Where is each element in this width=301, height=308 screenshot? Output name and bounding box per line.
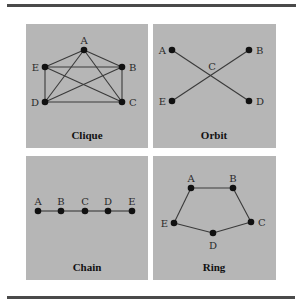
- node-C: [82, 208, 89, 215]
- network-diagram: ABCDE ABDEC ABCDE ABCDE Clique Orbit Cha…: [0, 0, 301, 308]
- node-label-E: E: [161, 218, 168, 229]
- node-label-D: D: [256, 96, 264, 107]
- clique-title: Clique: [71, 129, 102, 141]
- node-label-C: C: [208, 61, 216, 72]
- node-A: [81, 47, 88, 54]
- chain-graph: ABCDE: [33, 196, 135, 214]
- node-label-A: A: [33, 196, 42, 207]
- node-label-E: E: [32, 62, 39, 73]
- node-label-A: A: [158, 45, 167, 56]
- node-A: [35, 208, 42, 215]
- node-B: [119, 64, 126, 71]
- node-D: [246, 98, 253, 105]
- edge-B-C: [233, 188, 251, 222]
- node-label-C: C: [258, 217, 266, 228]
- orbit-title: Orbit: [201, 129, 228, 141]
- node-label-B: B: [129, 62, 136, 73]
- node-B: [58, 208, 65, 215]
- ring-graph: ABCDE: [161, 173, 266, 251]
- node-C: [119, 99, 126, 106]
- clique-graph: ABCDE: [31, 35, 137, 108]
- node-label-A: A: [79, 35, 88, 46]
- node-D: [42, 99, 49, 106]
- node-label-A: A: [186, 173, 195, 184]
- bottom-rule: [7, 296, 295, 299]
- edge-D-E: [174, 223, 213, 233]
- node-label-E: E: [128, 196, 135, 207]
- node-label-E: E: [159, 96, 166, 107]
- node-label-B: B: [256, 45, 263, 56]
- node-label-D: D: [104, 196, 112, 207]
- node-E: [169, 98, 176, 105]
- node-label-B: B: [229, 173, 236, 184]
- node-E: [171, 220, 178, 227]
- node-A: [169, 47, 176, 54]
- node-E: [42, 64, 49, 71]
- orbit-graph: ABDEC: [158, 45, 264, 107]
- node-label-C: C: [81, 196, 89, 207]
- node-E: [129, 208, 136, 215]
- node-D: [105, 208, 112, 215]
- chain-title: Chain: [73, 261, 102, 273]
- node-label-D: D: [209, 240, 217, 251]
- node-A: [188, 185, 195, 192]
- edge-C-D: [213, 222, 251, 233]
- node-C: [248, 219, 255, 226]
- edge-E-A: [174, 188, 191, 223]
- node-D: [210, 230, 217, 237]
- node-label-C: C: [129, 97, 137, 108]
- node-B: [246, 47, 253, 54]
- ring-title: Ring: [203, 261, 226, 273]
- node-label-B: B: [57, 196, 64, 207]
- node-label-D: D: [31, 97, 39, 108]
- node-B: [230, 185, 237, 192]
